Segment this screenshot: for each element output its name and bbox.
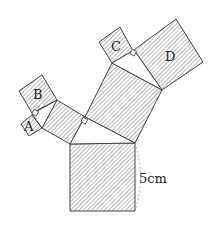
square-label-B: B [33,87,43,102]
square-label-C: C [111,39,121,54]
dimension-label: 5cm [139,171,167,186]
square-big-bottom [70,143,135,211]
square-label-D: D [165,49,175,64]
square-label-A: A [23,119,34,134]
pythagoras-tree-diagram: ABCD 5cm [0,0,218,226]
